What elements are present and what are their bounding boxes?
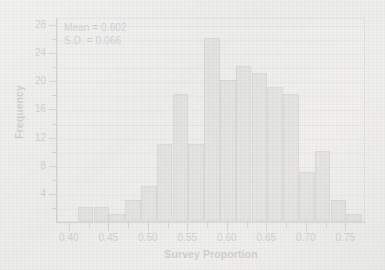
x-tick-minor xyxy=(207,223,208,228)
x-tick-major xyxy=(187,223,188,231)
sd-annotation: S.D. = 0.066 xyxy=(64,34,127,47)
y-tick-minor xyxy=(52,95,57,96)
y-tick-label: 8 xyxy=(6,161,46,171)
y-tick-label: 20 xyxy=(6,76,46,86)
x-tick-major xyxy=(266,223,267,231)
histogram-bar xyxy=(78,207,94,221)
y-tick-major xyxy=(49,25,57,26)
x-tick-label: 0.55 xyxy=(165,232,209,243)
y-tick-major xyxy=(49,109,57,110)
x-tick-label: 0.50 xyxy=(126,232,170,243)
x-tick-major xyxy=(148,223,149,231)
histogram-bar xyxy=(188,144,204,221)
histogram-bar xyxy=(346,214,362,221)
y-tick-label: 24 xyxy=(6,48,46,58)
x-tick-minor xyxy=(128,223,129,228)
x-tick-minor xyxy=(247,223,248,228)
y-tick-minor xyxy=(52,67,57,68)
y-tick-major xyxy=(49,194,57,195)
x-tick-minor xyxy=(326,223,327,228)
x-tick-major xyxy=(345,223,346,231)
x-tick-label: 0.40 xyxy=(47,232,91,243)
x-tick-label: 0.65 xyxy=(244,232,288,243)
histogram-bar xyxy=(173,94,189,221)
x-axis-line xyxy=(56,222,366,223)
x-tick-label: 0.60 xyxy=(205,232,249,243)
x-tick-major xyxy=(227,223,228,231)
y-tick-label: 28 xyxy=(6,20,46,30)
y-tick-label: 12 xyxy=(6,133,46,143)
x-tick-minor xyxy=(168,223,169,228)
plot-area xyxy=(57,18,365,222)
x-tick-label: 0.75 xyxy=(323,232,367,243)
y-tick-minor xyxy=(52,180,57,181)
y-axis-line xyxy=(56,18,57,223)
y-tick-minor xyxy=(52,39,57,40)
histogram-bar xyxy=(125,200,141,221)
stats-annotation: Mean = 0.602 S.D. = 0.066 xyxy=(64,21,127,47)
histogram-bar xyxy=(141,186,157,221)
x-tick-minor xyxy=(89,223,90,228)
histogram-bar xyxy=(299,172,315,221)
histogram-bar xyxy=(252,73,268,221)
y-tick-label: 4 xyxy=(6,189,46,199)
x-tick-label: 0.70 xyxy=(284,232,328,243)
histogram-bar xyxy=(220,80,236,221)
y-tick-major xyxy=(49,166,57,167)
x-tick-label: 0.45 xyxy=(86,232,130,243)
histogram-bar xyxy=(204,38,220,221)
y-tick-major xyxy=(49,138,57,139)
x-tick-major xyxy=(69,223,70,231)
histogram-bar xyxy=(315,151,331,221)
y-tick-minor xyxy=(52,208,57,209)
y-tick-major xyxy=(49,53,57,54)
histogram-bar xyxy=(331,200,347,221)
histogram-bar xyxy=(109,214,125,221)
mean-annotation: Mean = 0.602 xyxy=(64,21,127,34)
y-tick-label: 16 xyxy=(6,104,46,114)
y-tick-major xyxy=(49,81,57,82)
y-axis-title: Frequency xyxy=(13,67,25,157)
y-tick-minor xyxy=(52,152,57,153)
histogram-bar xyxy=(236,66,252,221)
histogram-bar xyxy=(283,94,299,221)
x-tick-major xyxy=(306,223,307,231)
histogram-bar xyxy=(157,144,173,221)
histogram-bar xyxy=(94,207,110,221)
x-tick-minor xyxy=(286,223,287,228)
x-axis-title: Survey Proportion xyxy=(57,248,365,260)
x-tick-major xyxy=(108,223,109,231)
histogram-bar xyxy=(267,87,283,221)
histogram-figure: 481216202428 Frequency 0.400.450.500.550… xyxy=(0,0,385,270)
y-tick-minor xyxy=(52,124,57,125)
